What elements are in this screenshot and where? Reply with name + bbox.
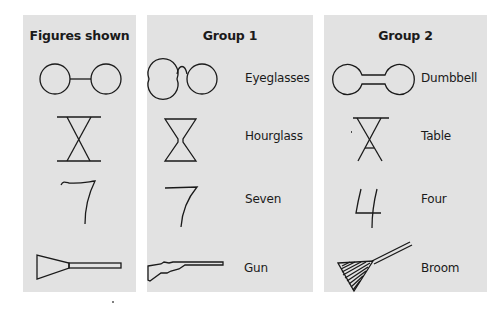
seven-label: Seven (245, 192, 281, 206)
broom-icon (336, 241, 416, 293)
triangle-rectangle-icon (35, 253, 125, 283)
eyeglasses-label: Eyeglasses (245, 71, 310, 85)
crossed-lines-icon (55, 115, 103, 163)
panel-title: Figures shown (23, 28, 136, 43)
group-2-panel: Group 2 Dumbbell Table Four Broom (324, 15, 487, 292)
four-icon (355, 187, 385, 229)
group-1-panel: Group 1 Eyeglasses Hourglass Seven Gun (147, 15, 313, 292)
hourglass-label: Hourglass (245, 129, 303, 143)
dumbbell-label: Dumbbell (421, 71, 477, 85)
hourglass-icon (163, 117, 199, 163)
four-label: Four (421, 192, 447, 206)
eyeglasses-icon (147, 62, 222, 96)
gun-icon (147, 261, 242, 283)
gun-label: Gun (244, 261, 268, 275)
panel-title: Group 1 (147, 28, 313, 43)
dumbbell-icon (333, 63, 415, 97)
seven-sketch-icon (59, 179, 101, 227)
broom-label: Broom (421, 261, 459, 275)
table-icon (351, 116, 391, 162)
figures-shown-panel: Figures shown (23, 15, 136, 292)
table-label: Table (421, 129, 451, 143)
panel-title: Group 2 (324, 28, 487, 43)
two-circles-icon (39, 62, 123, 96)
seven-icon (163, 185, 199, 229)
stray-dot (112, 301, 114, 303)
